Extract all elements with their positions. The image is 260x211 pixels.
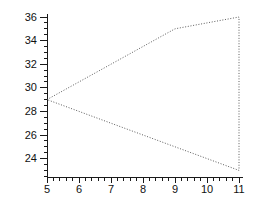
y-tick-label: 34 [25,34,37,46]
x-tick-label: 5 [44,183,50,195]
x-tick-label: 7 [108,183,114,195]
y-tick-label: 24 [25,152,37,164]
chart-figure: 24262830323436567891011 [0,0,260,211]
x-tick-label: 6 [76,183,82,195]
x-tick-label: 9 [172,183,178,195]
x-tick-label: 8 [140,183,146,195]
y-tick-label: 26 [25,129,37,141]
y-tick-label: 28 [25,105,37,117]
polygon-outline [47,17,239,170]
y-tick-label: 30 [25,81,37,93]
x-tick-label: 10 [201,183,213,195]
x-tick-label: 11 [233,183,244,195]
polygon-line-chart: 24262830323436567891011 [0,0,260,211]
y-tick-label: 36 [25,11,37,23]
y-tick-label: 32 [25,58,37,70]
